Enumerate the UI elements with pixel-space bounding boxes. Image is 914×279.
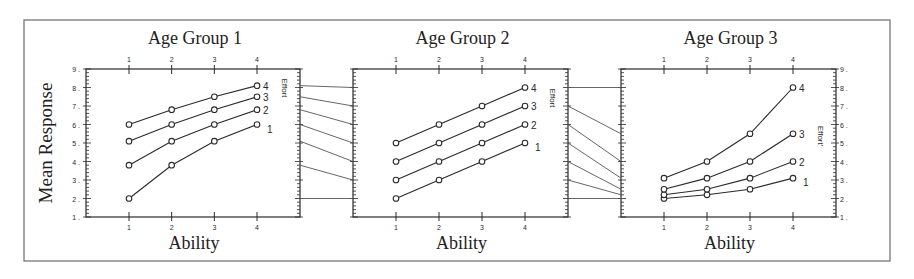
data-point	[522, 122, 528, 128]
panel-title: Age Group 3	[684, 28, 778, 48]
data-point	[212, 122, 218, 128]
x-tick-label: 2	[705, 224, 709, 231]
data-point	[212, 138, 218, 144]
data-point	[661, 186, 667, 192]
y-tick-label: 1 .	[840, 214, 848, 221]
panel-title: Age Group 2	[416, 28, 510, 48]
y-tick-label: 3 .	[840, 177, 848, 184]
data-point	[704, 159, 710, 165]
data-point	[169, 107, 175, 113]
data-point	[661, 175, 667, 181]
data-point	[254, 122, 260, 128]
x-tick-label-top: 3	[212, 56, 216, 63]
series-label: 2	[263, 105, 269, 116]
series-label: 4	[799, 83, 805, 94]
data-point	[704, 192, 710, 198]
x-tick-label: 1	[662, 224, 666, 231]
series-effort-4: 4	[393, 83, 537, 146]
x-tick-label: 4	[791, 224, 795, 231]
series-label: 4	[531, 83, 537, 94]
data-point	[393, 159, 399, 165]
connector-lines-2-to-3	[568, 88, 621, 199]
y-tick-label: 4 .	[840, 159, 848, 166]
x-tick-label-top: 2	[437, 56, 441, 63]
data-point	[393, 140, 399, 146]
series-effort-2: 2	[393, 120, 537, 183]
data-point	[126, 162, 132, 168]
data-point	[704, 186, 710, 192]
x-tick-label: 2	[170, 224, 174, 231]
data-point	[522, 140, 528, 146]
series-label: 1	[535, 142, 541, 153]
x-tick-label-top: 3	[748, 56, 752, 63]
y-tick-label: 7 .	[72, 103, 80, 110]
x-tick-label-top: 1	[662, 56, 666, 63]
panel-age-group-1: Age Group 11 .2 .3 .4 .5 .6 .7 .8 .9 .11…	[72, 28, 303, 253]
x-tick-label: 1	[127, 224, 131, 231]
y-tick-label: 3 .	[72, 177, 80, 184]
x-axis-label: Ability	[436, 233, 487, 253]
data-point	[126, 122, 132, 128]
y-tick-label: 2 .	[840, 196, 848, 203]
series-label: 3	[799, 129, 805, 140]
x-tick-label: 4	[255, 224, 259, 231]
data-point	[522, 85, 528, 91]
data-point	[790, 85, 796, 91]
y-tick-label: 5 .	[840, 140, 848, 147]
data-point	[747, 159, 753, 165]
data-point	[212, 107, 218, 113]
series-effort-1: 1	[661, 175, 809, 201]
data-point	[169, 162, 175, 168]
data-point	[479, 103, 485, 109]
x-tick-label: 3	[212, 224, 216, 231]
x-tick-label: 2	[437, 224, 441, 231]
effort-legend-title: Effort	[548, 89, 557, 109]
data-point	[126, 196, 132, 202]
series-label: 3	[531, 101, 537, 112]
series-effort-4: 4	[126, 81, 269, 128]
y-tick-label: 2 .	[72, 196, 80, 203]
x-axis-label: Ability	[704, 233, 755, 253]
x-tick-label-top: 2	[705, 56, 709, 63]
data-point	[126, 138, 132, 144]
x-tick-label-top: 4	[523, 56, 527, 63]
x-tick-label-top: 1	[394, 56, 398, 63]
x-tick-label-top: 4	[255, 56, 259, 63]
data-point	[479, 140, 485, 146]
y-tick-label: 5 .	[72, 140, 80, 147]
x-axis-label: Ability	[168, 233, 219, 253]
data-point	[254, 83, 260, 89]
y-tick-label: 6 .	[72, 122, 80, 129]
x-tick-label: 1	[394, 224, 398, 231]
x-tick-label-top: 4	[791, 56, 795, 63]
data-point	[747, 175, 753, 181]
series-label: 3	[263, 92, 269, 103]
y-tick-label: 6 .	[840, 122, 848, 129]
data-point	[436, 140, 442, 146]
y-tick-label: 8 .	[72, 85, 80, 92]
data-point	[790, 175, 796, 181]
data-point	[747, 131, 753, 137]
series-label: 2	[531, 120, 537, 131]
x-tick-label: 4	[523, 224, 527, 231]
effort-legend-title: Effort'	[816, 126, 825, 147]
y-tick-label: 8 .	[840, 85, 848, 92]
data-point	[747, 186, 753, 192]
figure-frame	[24, 20, 890, 261]
data-point	[790, 131, 796, 137]
series-label: 4	[263, 81, 269, 92]
data-point	[479, 159, 485, 165]
data-point	[522, 103, 528, 109]
data-point	[436, 177, 442, 183]
series-label: 2	[799, 157, 805, 168]
series-effort-3: 3	[393, 101, 537, 164]
x-tick-label: 3	[748, 224, 752, 231]
y-tick-label: 9 .	[840, 66, 848, 73]
series-effort-2: 2	[126, 105, 269, 168]
figure: Mean Response Age Group 11 .2 .3 .4 .5 .…	[0, 0, 914, 279]
series-label: 1	[267, 124, 273, 135]
data-point	[169, 138, 175, 144]
x-tick-label: 3	[480, 224, 484, 231]
y-tick-label: 1 .	[72, 214, 80, 221]
x-tick-label-top: 2	[170, 56, 174, 63]
